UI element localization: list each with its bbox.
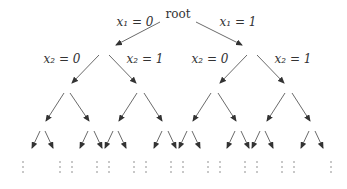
edge-label-x2-1-right: x₂ = 1 — [275, 52, 312, 66]
edge-label-x1-0: x₁ = 0 — [117, 15, 154, 29]
edge-label-x2-0-right: x₂ = 0 — [192, 52, 229, 66]
edge-label-x1-1: x₁ = 1 — [220, 15, 257, 29]
level4-arrows — [32, 131, 323, 148]
edge-label-x2-0-left: x₂ = 0 — [44, 52, 81, 66]
continuation-dots — [22, 161, 331, 172]
edge-label-x2-1-left: x₂ = 1 — [127, 52, 164, 66]
level3-arrows — [46, 93, 310, 121]
level2-arrows — [72, 55, 284, 83]
root-label: root — [165, 7, 190, 21]
binary-decision-tree: root x₁ = 0 x₁ = 1 x₂ = 0 x₂ = 1 x₂ = 0 … — [0, 0, 347, 189]
